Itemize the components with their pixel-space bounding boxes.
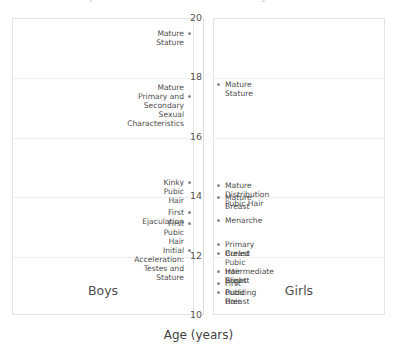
data-point-dot (217, 291, 220, 294)
data-point-dot (217, 219, 220, 222)
gridline (13, 78, 193, 79)
gridline (13, 138, 193, 139)
data-point-dot (217, 282, 220, 285)
plot-panel-boys: Boys Mature StatureMature Primary and Se… (12, 18, 194, 315)
data-point-dot (217, 270, 220, 273)
data-point-dot (217, 184, 220, 187)
event-label: Menarche (225, 216, 262, 225)
data-point-dot (217, 252, 220, 255)
y-axis-tick-label: 12 (190, 251, 202, 261)
y-axis-tick-label: 14 (190, 191, 202, 201)
event-label: Kinky Pubic Hair (163, 178, 184, 205)
plot-panel-girls: Girls Mature StatureMature Distribution … (213, 18, 385, 315)
y-axis-line (203, 18, 204, 315)
data-point-dot (188, 222, 191, 225)
event-label: Budding Breast (225, 288, 256, 306)
gridline (214, 138, 384, 139)
data-point-dot (217, 243, 220, 246)
data-point-dot (217, 196, 220, 199)
data-point-dot (188, 95, 191, 98)
x-axis-label: Age (years) (0, 328, 397, 342)
event-label: Initial Acceleration: Testes and Stature (134, 246, 184, 282)
chart-title: Sequence of Pubertal Events in Boys and … (0, 0, 397, 2)
event-label: Mature Primary and Secondary Sexual Char… (127, 83, 184, 128)
event-label: Mature Stature (225, 80, 253, 98)
data-point-dot (188, 181, 191, 184)
event-label: First Pubic Hair (164, 219, 184, 246)
y-axis: 201816141210 (194, 18, 213, 315)
data-point-dot (188, 32, 191, 35)
data-point-dot (188, 211, 191, 214)
y-axis-tick-label: 16 (190, 132, 202, 142)
event-label: Mature Stature (156, 29, 184, 47)
group-caption-boys: Boys (13, 283, 193, 298)
y-axis-tick-label: 10 (190, 310, 202, 320)
y-axis-tick-label: 20 (190, 13, 202, 23)
data-point-dot (217, 83, 220, 86)
event-label: Mature Breast (225, 193, 252, 211)
y-axis-tick-label: 18 (190, 72, 202, 82)
